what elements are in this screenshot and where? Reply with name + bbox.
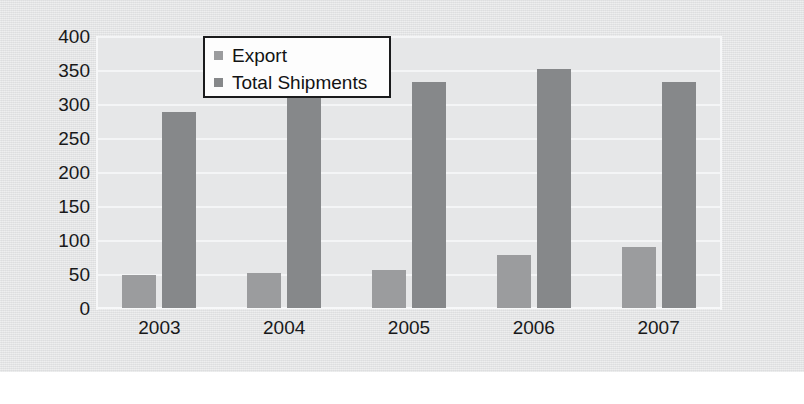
y-axis-tick-label: 150 bbox=[34, 197, 90, 216]
legend-swatch-total-shipments bbox=[214, 78, 223, 87]
y-axis-tick-label: 250 bbox=[34, 129, 90, 148]
gridline bbox=[97, 104, 721, 106]
y-axis-line bbox=[96, 36, 98, 310]
y-axis-tick-label: 350 bbox=[34, 61, 90, 80]
bar-2005-export bbox=[372, 270, 406, 308]
grouped-bar-chart: 400350300250200150100500 200320042005200… bbox=[0, 0, 804, 372]
bar-2004-total-shipments bbox=[287, 92, 321, 308]
y-axis-tick-label: 300 bbox=[34, 95, 90, 114]
page-bottom-margin bbox=[0, 372, 804, 404]
x-axis-tick-label: 2007 bbox=[599, 318, 719, 337]
y-axis-tick-label: 400 bbox=[34, 27, 90, 46]
y-axis-tick-label: 100 bbox=[34, 231, 90, 250]
bar-2007-export bbox=[622, 247, 656, 308]
bar-2003-total-shipments bbox=[162, 112, 196, 308]
legend-label-total-shipments: Total Shipments bbox=[232, 73, 367, 92]
bar-2006-export bbox=[497, 255, 531, 308]
legend-item-export: Export bbox=[214, 43, 287, 67]
legend-swatch-export bbox=[214, 51, 223, 60]
legend-item-total-shipments: Total Shipments bbox=[214, 70, 367, 94]
gridline bbox=[97, 36, 721, 38]
x-axis-tick-label: 2003 bbox=[99, 318, 219, 337]
legend-label-export: Export bbox=[232, 46, 287, 65]
bar-2004-export bbox=[247, 273, 281, 308]
y-axis-tick-label: 50 bbox=[34, 265, 90, 284]
bar-2003-export bbox=[122, 275, 156, 308]
y-axis-tick-labels: 400350300250200150100500 bbox=[30, 36, 90, 308]
x-axis-tick-label: 2005 bbox=[349, 318, 469, 337]
chart-screenshot: 400350300250200150100500 200320042005200… bbox=[0, 0, 804, 404]
x-axis-tick-label: 2004 bbox=[224, 318, 344, 337]
x-axis-tick-label: 2006 bbox=[474, 318, 594, 337]
plot-right-border bbox=[720, 36, 722, 310]
gridline bbox=[97, 70, 721, 72]
y-axis-tick-label: 200 bbox=[34, 163, 90, 182]
bar-2006-total-shipments bbox=[537, 69, 571, 308]
chart-legend: Export Total Shipments bbox=[203, 36, 391, 98]
bar-2007-total-shipments bbox=[662, 82, 696, 308]
bar-2005-total-shipments bbox=[412, 82, 446, 308]
y-axis-tick-label: 0 bbox=[34, 299, 90, 318]
